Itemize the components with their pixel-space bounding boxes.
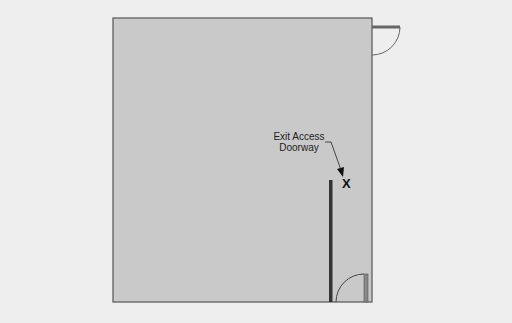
exit-access-label: Exit Access Doorway [264, 131, 334, 153]
room [113, 18, 372, 302]
x-marker: X [342, 176, 351, 191]
partition-wall [329, 180, 333, 302]
label-line-1: Exit Access [264, 131, 334, 142]
exterior-door [372, 27, 400, 55]
label-line-2: Doorway [264, 142, 334, 153]
floor-plan [0, 0, 512, 323]
